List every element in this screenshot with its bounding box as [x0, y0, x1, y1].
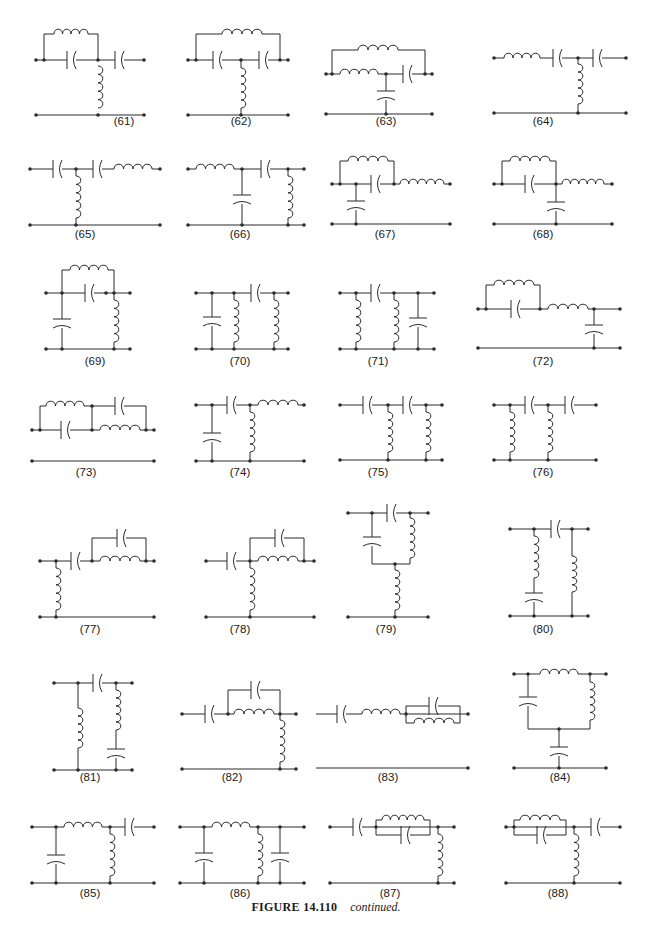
node-dot	[466, 766, 470, 770]
node-dot	[393, 615, 397, 619]
circuit-64	[492, 49, 628, 115]
node-dot	[338, 403, 342, 407]
node-dot	[112, 347, 116, 351]
node-dot	[424, 403, 428, 407]
node-dot	[532, 527, 536, 531]
node-dot	[30, 881, 34, 885]
node-dot	[492, 182, 496, 186]
node-dot	[328, 825, 332, 829]
node-dot	[302, 167, 306, 171]
node-dot	[576, 111, 580, 115]
circuit-label-64: (64)	[533, 115, 553, 127]
node-dot	[554, 222, 558, 226]
node-dot	[210, 459, 214, 463]
node-dot	[386, 458, 390, 462]
circuit-86	[178, 822, 306, 885]
node-dot	[286, 347, 290, 351]
circuit-label-78: (78)	[230, 623, 250, 635]
node-dot	[452, 825, 456, 829]
node-dot	[594, 458, 598, 462]
node-dot	[512, 825, 516, 829]
node-dot	[604, 672, 608, 676]
node-dot	[508, 527, 512, 531]
node-dot	[30, 428, 34, 432]
node-dot	[302, 459, 306, 463]
circuit-label-71: (71)	[368, 355, 388, 367]
circuit-label-75: (75)	[368, 466, 388, 478]
node-dot	[346, 615, 350, 619]
circuit-label-66: (66)	[230, 228, 250, 240]
circuit-label-88: (88)	[548, 887, 568, 899]
circuit-label-81: (81)	[80, 771, 100, 783]
node-dot	[484, 307, 488, 311]
node-dot	[272, 291, 276, 295]
node-dot	[302, 825, 306, 829]
node-dot	[426, 615, 430, 619]
node-dot	[592, 346, 596, 350]
node-dot	[512, 672, 516, 676]
node-dot	[374, 825, 378, 829]
node-dot	[466, 712, 470, 716]
node-dot	[492, 222, 496, 226]
circuit-85	[30, 818, 156, 885]
circuit-73	[30, 397, 156, 463]
circuit-label-83: (83)	[378, 771, 398, 783]
node-dot	[38, 559, 42, 563]
node-dot	[74, 167, 78, 171]
node-dot	[34, 113, 38, 117]
node-dot	[240, 223, 244, 227]
node-dot	[432, 347, 436, 351]
node-dot	[278, 881, 282, 885]
node-dot	[144, 559, 148, 563]
node-dot	[278, 712, 282, 716]
node-dot	[60, 347, 64, 351]
node-dot	[232, 291, 236, 295]
node-dot	[338, 458, 342, 462]
circuit-74	[194, 396, 306, 463]
circuit-label-76: (76)	[533, 466, 553, 478]
node-dot	[492, 403, 496, 407]
node-dot	[346, 511, 350, 515]
node-dot	[448, 182, 452, 186]
node-dot	[324, 112, 328, 116]
node-dot	[384, 72, 388, 76]
node-dot	[202, 825, 206, 829]
node-dot	[202, 881, 206, 885]
node-dot	[392, 182, 396, 186]
node-dot	[492, 56, 496, 60]
node-dot	[500, 182, 504, 186]
circuit-label-62: (62)	[231, 115, 251, 127]
circuit-67	[330, 156, 452, 226]
node-dot	[404, 712, 408, 716]
node-dot	[448, 222, 452, 226]
node-dot	[34, 58, 38, 62]
node-dot	[436, 881, 440, 885]
node-dot	[278, 767, 282, 771]
node-dot	[278, 58, 282, 62]
node-dot	[52, 681, 56, 685]
circuit-figure-canvas	[0, 0, 652, 937]
node-dot	[586, 527, 590, 531]
node-dot	[210, 291, 214, 295]
node-dot	[624, 111, 628, 115]
circuit-61	[34, 29, 146, 117]
node-dot	[194, 58, 198, 62]
node-dot	[302, 223, 306, 227]
circuit-77	[38, 529, 156, 619]
node-dot	[592, 307, 596, 311]
circuit-68	[492, 156, 614, 226]
node-dot	[370, 511, 374, 515]
node-dot	[152, 615, 156, 619]
node-dot	[393, 562, 397, 566]
node-dot	[44, 291, 48, 295]
node-dot	[104, 291, 108, 295]
circuit-label-77: (77)	[80, 623, 100, 635]
node-dot	[423, 72, 427, 76]
circuit-82	[180, 681, 298, 771]
node-dot	[432, 291, 436, 295]
circuit-label-63: (63)	[376, 115, 396, 127]
node-dot	[114, 681, 118, 685]
circuit-label-73: (73)	[76, 466, 96, 478]
node-dot	[90, 404, 94, 408]
circuit-label-69: (69)	[85, 355, 105, 367]
